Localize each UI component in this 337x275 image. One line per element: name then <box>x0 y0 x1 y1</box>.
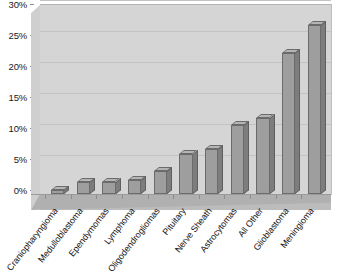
y-axis-tick-label: 15% <box>9 92 27 103</box>
bar-front-face <box>308 25 321 194</box>
bar <box>51 190 64 194</box>
bar-side-face <box>90 178 95 194</box>
bar-side-face <box>218 145 223 194</box>
bar <box>128 180 141 194</box>
y-axis-tick-label: 25% <box>9 30 27 41</box>
bar <box>179 154 192 194</box>
bar-front-face <box>154 171 167 194</box>
bar <box>308 25 321 194</box>
bar-side-face <box>193 150 198 194</box>
bar-side-face <box>295 49 300 194</box>
y-axis-tick-label: 0% <box>14 185 27 196</box>
bar <box>256 118 269 194</box>
bar-front-face <box>77 182 90 194</box>
y-axis: 0%5%10%15%20%25%30% <box>0 0 30 210</box>
bar-front-face <box>256 118 269 194</box>
bar-side-face <box>270 114 275 194</box>
gridline <box>40 0 331 1</box>
y-axis-tick-label: 10% <box>9 123 27 134</box>
bar-front-face <box>282 53 295 194</box>
bar <box>154 171 167 194</box>
bar-chart: 0%5%10%15%20%25%30% CraniopharyngiomaMed… <box>0 0 337 275</box>
bar-side-face <box>244 121 249 194</box>
bar <box>102 182 115 194</box>
bar-front-face <box>179 154 192 194</box>
y-axis-tick-label: 5% <box>14 154 27 165</box>
y-axis-tick-label: 20% <box>9 61 27 72</box>
bar-side-face <box>167 167 172 194</box>
bar-front-face <box>102 182 115 194</box>
y-axis-tick-label: 30% <box>9 0 27 10</box>
bar <box>77 182 90 194</box>
x-axis-labels: CraniopharyngiomaMedulloblastomaEpendymo… <box>0 200 337 275</box>
bar <box>282 53 295 194</box>
bar-front-face <box>231 125 244 194</box>
bars-layer <box>31 4 331 210</box>
bar-front-face <box>205 149 218 194</box>
bar-side-face <box>141 176 146 194</box>
bar <box>231 125 244 194</box>
bar-side-face <box>116 178 121 194</box>
bar-front-face <box>128 180 141 194</box>
bar-front-face <box>51 190 64 194</box>
bar <box>205 149 218 194</box>
bar-side-face <box>321 21 326 194</box>
